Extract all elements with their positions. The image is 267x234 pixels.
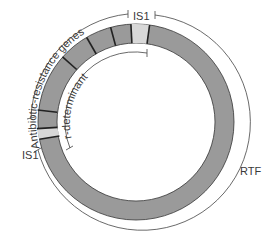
plasmid-diagram: IS1 IS1 RTF Antibiotic-resistance genes … <box>0 0 267 234</box>
is1-top-label: IS1 <box>133 10 150 22</box>
rtf-label: RTF <box>240 165 261 177</box>
is1-left-label: IS1 <box>22 149 39 161</box>
plasmid-ring <box>48 34 225 211</box>
